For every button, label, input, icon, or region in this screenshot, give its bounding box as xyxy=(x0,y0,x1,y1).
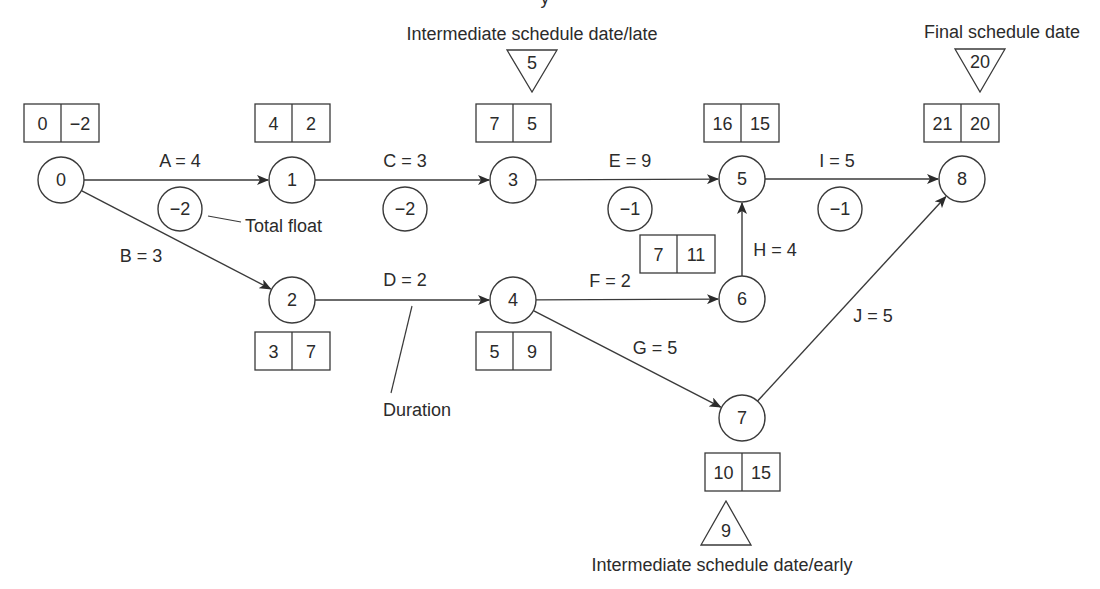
early-date: 7 xyxy=(653,245,663,265)
event-node-7: 7 xyxy=(719,395,765,441)
total-float-circle: −1 xyxy=(818,187,862,231)
event-node-5: 5 xyxy=(719,156,765,202)
date-box-node-0: 0−2 xyxy=(24,104,99,142)
total-float-value: −1 xyxy=(620,199,641,219)
activity-label: C = 3 xyxy=(383,151,427,171)
late-date: 5 xyxy=(527,114,537,134)
final-schedule-label: Final schedule date xyxy=(924,22,1080,42)
activity-label: B = 3 xyxy=(120,246,163,266)
total-float-value: −2 xyxy=(170,199,191,219)
early-date: 3 xyxy=(268,342,278,362)
total-float-value: −1 xyxy=(830,199,851,219)
late-date: −2 xyxy=(70,114,91,134)
date-box-node-2: 37 xyxy=(255,332,330,370)
date-box-node-6: 711 xyxy=(640,235,715,273)
node-number: 6 xyxy=(737,289,747,309)
duration-leader-line xyxy=(391,306,412,393)
activity-A: A = 4−2 xyxy=(84,151,268,231)
date-box-node-7: 1015 xyxy=(705,453,780,491)
arrow-F xyxy=(536,299,718,300)
date-box-node-8: 2120 xyxy=(924,104,999,142)
duration-label: Duration xyxy=(383,400,451,420)
node-number: 3 xyxy=(508,170,518,190)
event-node-6: 6 xyxy=(719,276,765,322)
total-float-circle: −1 xyxy=(608,187,652,231)
total-float-circle: −2 xyxy=(383,187,427,231)
node-number: 4 xyxy=(508,290,518,310)
milestone-value: 20 xyxy=(970,52,990,72)
total-float-label: Total float xyxy=(245,216,322,236)
early-date: 5 xyxy=(489,342,499,362)
early-date: 16 xyxy=(712,114,732,134)
network-diagram: y Intermediate schedule date/late Final … xyxy=(0,0,1100,589)
milestone-late-triangle: 5 xyxy=(507,50,557,92)
activity-label: H = 4 xyxy=(753,240,797,260)
late-date: 20 xyxy=(970,114,990,134)
late-date: 2 xyxy=(306,114,316,134)
activity-label: I = 5 xyxy=(819,151,855,171)
activity-label: J = 5 xyxy=(853,306,893,326)
event-node-0: 0 xyxy=(38,157,84,203)
activity-C: C = 3−2 xyxy=(315,151,489,231)
activity-label: F = 2 xyxy=(589,271,631,291)
activity-I: I = 5−1 xyxy=(765,151,938,231)
date-box-node-5: 1615 xyxy=(704,104,779,142)
total-float-leader-line xyxy=(208,216,241,222)
date-box-node-4: 59 xyxy=(476,332,551,370)
top-partial-text: y xyxy=(541,0,550,8)
early-date: 0 xyxy=(37,114,47,134)
total-float-circle: −2 xyxy=(158,187,202,231)
node-number: 2 xyxy=(287,290,297,310)
event-node-2: 2 xyxy=(269,277,315,323)
activity-H: H = 4 xyxy=(742,203,797,276)
total-float-value: −2 xyxy=(395,199,416,219)
milestone-final-triangle: 20 xyxy=(955,49,1005,92)
intermediate-late-label: Intermediate schedule date/late xyxy=(406,24,657,44)
early-date: 4 xyxy=(268,114,278,134)
event-node-4: 4 xyxy=(490,277,536,323)
date-box-node-3: 75 xyxy=(476,104,551,142)
node-number: 0 xyxy=(56,170,66,190)
arrow-E xyxy=(536,179,718,180)
intermediate-early-label: Intermediate schedule date/early xyxy=(591,555,852,575)
arrow-G xyxy=(533,311,720,407)
early-date: 10 xyxy=(713,463,733,483)
late-date: 11 xyxy=(687,245,706,265)
node-number: 8 xyxy=(957,169,967,189)
activity-label: E = 9 xyxy=(609,151,652,171)
event-node-1: 1 xyxy=(269,157,315,203)
late-date: 15 xyxy=(750,114,770,134)
activity-G: G = 5 xyxy=(533,311,720,407)
activity-F: F = 2 xyxy=(536,271,718,300)
milestone-early-triangle: 9 xyxy=(701,501,751,545)
date-box-node-1: 42 xyxy=(255,104,330,142)
late-date: 7 xyxy=(306,342,316,362)
late-date: 9 xyxy=(527,342,537,362)
early-date: 7 xyxy=(489,114,499,134)
event-node-3: 3 xyxy=(490,157,536,203)
activity-E: E = 9−1 xyxy=(536,151,718,231)
node-number: 1 xyxy=(287,170,297,190)
activity-D: D = 2 xyxy=(315,270,489,300)
activity-label: A = 4 xyxy=(159,151,201,171)
early-date: 21 xyxy=(932,114,952,134)
late-date: 15 xyxy=(751,463,771,483)
node-number: 7 xyxy=(737,408,747,428)
event-node-8: 8 xyxy=(939,156,985,202)
milestone-value: 9 xyxy=(721,521,731,541)
node-number: 5 xyxy=(737,169,747,189)
milestone-value: 5 xyxy=(527,53,537,73)
activity-label: G = 5 xyxy=(633,338,678,358)
activity-label: D = 2 xyxy=(383,270,427,290)
